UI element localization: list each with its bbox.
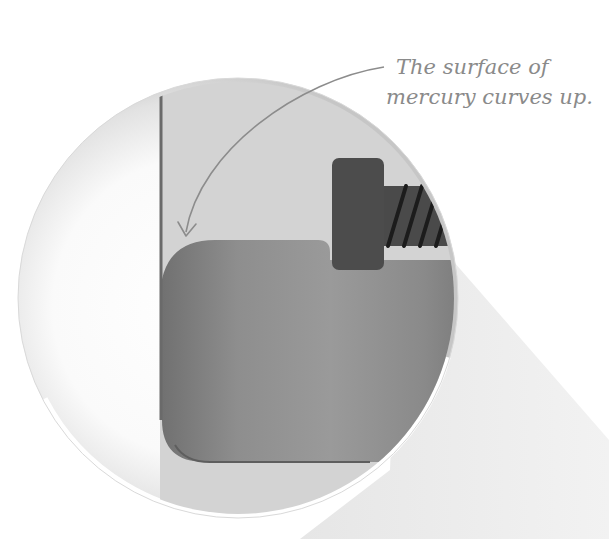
annotation-line-1: The surface of	[396, 55, 552, 79]
annotation-line-2: mercury curves up.	[386, 85, 593, 109]
magnified-mercury-diagram: The surface of mercury curves up.	[0, 0, 609, 539]
electrode-block	[332, 158, 384, 270]
